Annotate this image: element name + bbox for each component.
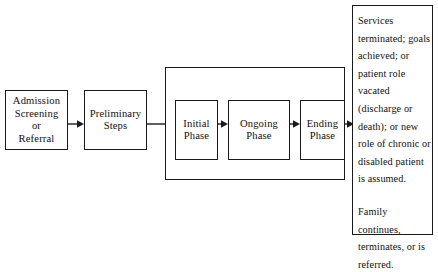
node-label: Preliminary Steps xyxy=(90,108,142,133)
node-ongoing-phase[interactable]: Ongoing Phase xyxy=(228,100,290,160)
node-label: Ending Phase xyxy=(307,118,339,143)
node-ending-phase[interactable]: Ending Phase xyxy=(300,100,345,160)
outcome-paragraph-services: Services terminated; goals achieved; or … xyxy=(358,12,432,188)
outcome-paragraph-family: Family continues, terminates, or is refe… xyxy=(358,203,432,272)
node-label: Admission Screening or Referral xyxy=(13,95,60,145)
arrow-admission-to-preliminary xyxy=(68,117,84,131)
node-admission-screening-referral[interactable]: Admission Screening or Referral xyxy=(5,90,68,150)
node-label: Ongoing Phase xyxy=(240,118,278,143)
node-initial-phase[interactable]: Initial Phase xyxy=(175,100,218,160)
node-label: Initial Phase xyxy=(183,118,209,143)
node-preliminary-steps[interactable]: Preliminary Steps xyxy=(84,90,147,150)
node-outcome-summary[interactable]: Services terminated; goals achieved; or … xyxy=(352,5,433,235)
